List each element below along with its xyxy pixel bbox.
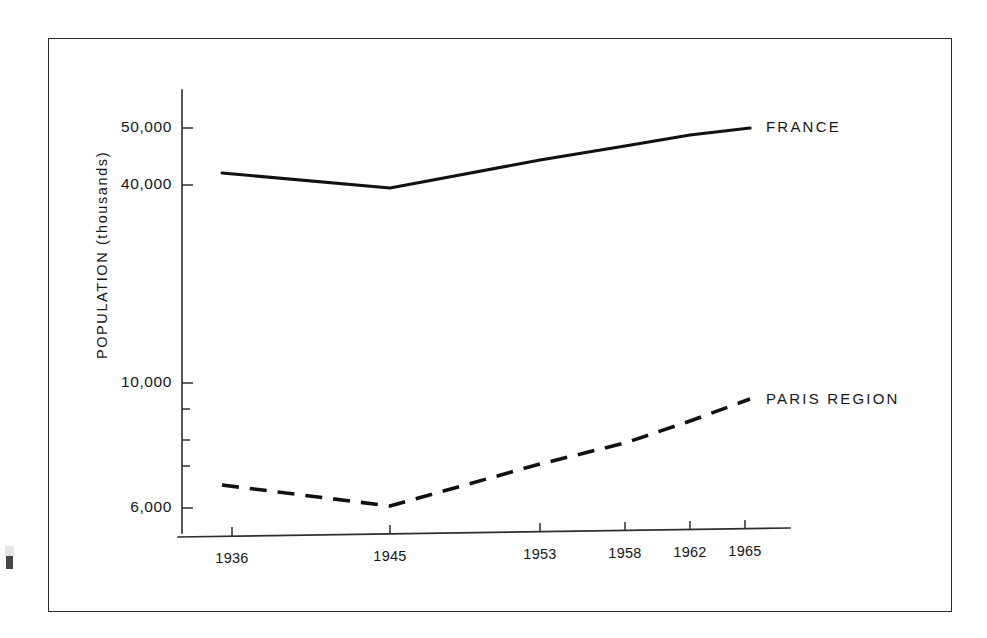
y-tick-label-50000: 50,000 [121, 118, 172, 135]
x-axis [178, 520, 790, 537]
y-tick-label-6000: 6,000 [130, 498, 172, 515]
x-axis-spine [178, 528, 790, 537]
x-tick-label-1962: 1962 [673, 544, 706, 560]
series-line-france [222, 128, 750, 188]
series-label-paris-region: PARIS REGION [766, 390, 900, 407]
x-tick-label-1945: 1945 [373, 548, 406, 564]
y-tick-label-10000: 10,000 [121, 373, 172, 390]
population-line-chart: 50,000 40,000 10,000 6,000 1936 1945 195… [0, 0, 987, 638]
y-axis-title: POPULATION (thousands) [94, 151, 110, 359]
y-axis [182, 90, 193, 533]
series-line-paris-region [222, 399, 750, 506]
x-tick-label-1965: 1965 [728, 543, 761, 559]
x-tick-label-1958: 1958 [608, 545, 641, 561]
y-tick-label-40000: 40,000 [121, 175, 172, 192]
series-label-france: FRANCE [766, 118, 841, 135]
x-tick-label-1936: 1936 [215, 550, 248, 566]
x-tick-label-1953: 1953 [523, 546, 556, 562]
